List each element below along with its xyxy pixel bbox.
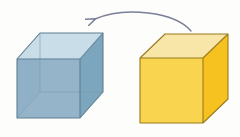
figure-container: A yellow opaque cube on the right and a … — [0, 0, 240, 137]
blue-cube-front-face — [17, 59, 80, 118]
yellow-cube-front-face — [140, 58, 203, 123]
yellow-cube — [140, 34, 228, 123]
blue-cube — [17, 33, 103, 118]
cube-rotation-illustration — [0, 0, 240, 137]
